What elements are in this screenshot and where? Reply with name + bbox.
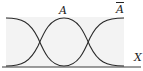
shaded-region: [6, 17, 124, 67]
set-a-label: A: [59, 5, 67, 16]
complement-label: A: [116, 4, 124, 15]
axis-label-x: X: [134, 52, 142, 63]
